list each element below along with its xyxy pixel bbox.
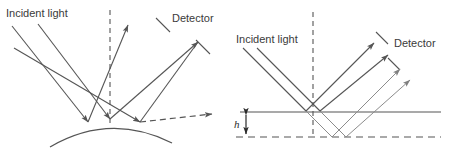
right-incident-light-label: Incident light <box>236 33 298 45</box>
right-detector-tick-icon <box>376 32 388 44</box>
height-label: h <box>234 118 240 130</box>
right-detector-label: Detector <box>394 37 436 49</box>
right-reflected-ray-3 <box>332 69 400 137</box>
right-transmitted-ray-2 <box>320 111 346 137</box>
left-reflected-ray-1 <box>88 25 128 122</box>
left-incident-ray-3 <box>14 48 140 122</box>
right-transmitted-ray-1 <box>306 111 332 137</box>
left-scattered-ray <box>140 114 212 122</box>
diagram-canvas: Incident light Detector Incident light D… <box>0 0 451 151</box>
right-reflected-ray-4 <box>346 80 410 137</box>
left-reflected-ray-2 <box>110 42 198 119</box>
left-detector-label: Detector <box>172 12 214 24</box>
right-incident-ray-2 <box>257 48 320 111</box>
optical-scattering-diagram: Incident light Detector Incident light D… <box>0 0 451 151</box>
right-panel: Incident light Detector h <box>234 12 441 137</box>
left-reflected-ray-3 <box>140 42 198 122</box>
right-detector-tick2-icon <box>388 58 400 70</box>
left-curved-surface <box>50 128 172 147</box>
right-incident-ray-1 <box>243 48 306 111</box>
left-incident-light-label: Incident light <box>6 7 68 19</box>
left-detector-tick-icon <box>156 18 170 32</box>
left-panel: Incident light Detector <box>6 7 214 147</box>
right-reflected-ray-1 <box>306 43 374 111</box>
